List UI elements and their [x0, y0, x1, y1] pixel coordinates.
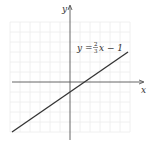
y-axis — [68, 5, 72, 140]
svg-text:=: = — [85, 43, 93, 53]
x-axis — [12, 80, 144, 84]
x-axis-label: x — [141, 85, 146, 95]
svg-text:x − 1: x − 1 — [99, 43, 123, 53]
svg-text:3: 3 — [94, 48, 98, 54]
svg-text:2: 2 — [94, 41, 98, 47]
svg-text:y: y — [76, 43, 83, 53]
coordinate-plane: y x y = 2 3 x − 1 — [0, 0, 153, 144]
y-axis-label: y — [61, 4, 68, 14]
